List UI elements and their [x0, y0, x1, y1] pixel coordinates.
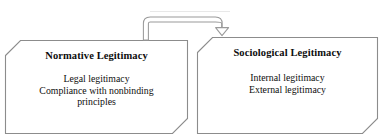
sociological-legitimacy-box[interactable]: [198, 38, 378, 134]
flow-arrow-normative-to-sociological[interactable]: [143, 17, 228, 40]
normative-legitimacy-box[interactable]: [6, 41, 188, 134]
diagram-canvas: Normative Legitimacy Legal legitimacy Co…: [0, 0, 383, 138]
diagram-shapes: [0, 0, 383, 138]
